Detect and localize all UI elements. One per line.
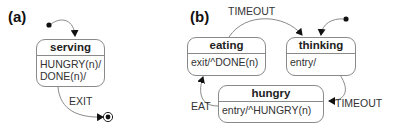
- initial-state-a: [46, 22, 51, 27]
- state-name: thinking: [287, 38, 355, 54]
- initial-transition-a: [51, 20, 75, 36]
- transition-eating-thinking: [229, 19, 302, 37]
- state-thinking: thinking entry/: [286, 37, 356, 76]
- state-actions: HUNGRY(n)/ DONE(n)/: [37, 56, 104, 82]
- state-actions: exit/^DONE(n): [188, 54, 265, 68]
- action-line: DONE(n)/: [40, 70, 104, 82]
- state-serving: serving HUNGRY(n)/ DONE(n)/: [36, 39, 105, 87]
- transition-label-eat: EAT: [191, 100, 211, 112]
- state-name: hungry: [219, 86, 323, 102]
- state-name: eating: [188, 38, 265, 54]
- action-line: entry/: [290, 56, 355, 68]
- state-eating: eating exit/^DONE(n): [187, 37, 266, 76]
- transition-label-exit: EXIT: [69, 95, 92, 107]
- state-name: serving: [37, 40, 104, 56]
- transition-label-timeout-top: TIMEOUT: [228, 5, 275, 17]
- panel-label-a: (a): [8, 8, 26, 25]
- state-hungry: hungry entry/^HUNGRY(n): [218, 85, 324, 123]
- action-line: exit/^DONE(n): [191, 56, 265, 68]
- final-state-dot: [106, 115, 111, 120]
- state-actions: entry/: [287, 54, 355, 68]
- initial-transition-b: [321, 19, 344, 35]
- initial-state-b: [343, 16, 348, 21]
- action-line: HUNGRY(n)/: [40, 58, 104, 70]
- action-line: entry/^HUNGRY(n): [222, 104, 323, 116]
- state-actions: entry/^HUNGRY(n): [219, 102, 323, 116]
- transition-label-timeout-right: TIMEOUT: [335, 97, 382, 109]
- panel-label-b: (b): [190, 8, 209, 25]
